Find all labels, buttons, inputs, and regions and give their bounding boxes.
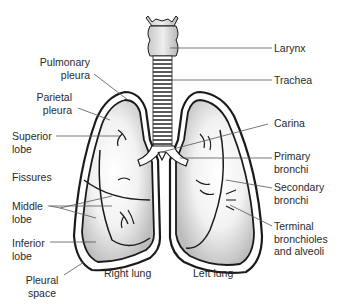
label-text: bronchioles	[274, 233, 328, 246]
caption-right-lung: Right lung	[104, 267, 151, 280]
label-text: pleura	[20, 69, 90, 82]
label-text: Pleural	[24, 274, 60, 287]
label-middle-lobe: Middle lobe	[12, 200, 43, 225]
label-text: and alveoli	[274, 245, 328, 258]
caption-left-lung: Left lung	[193, 267, 233, 280]
label-pleural-space: Pleural space	[24, 274, 60, 299]
label-inferior-lobe: Inferior lobe	[12, 237, 45, 262]
left-lung-shape	[170, 92, 262, 273]
label-text: space	[24, 287, 60, 300]
label-primary-bronchi: Primary bronchi	[274, 150, 310, 175]
label-text: Primary	[274, 150, 310, 163]
right-lung-shape	[74, 92, 160, 270]
label-text: Secondary	[274, 181, 324, 194]
label-pulmonary-pleura: Pulmonary pleura	[20, 56, 90, 81]
label-text: Superior	[12, 130, 52, 143]
label-larynx: Larynx	[274, 42, 306, 55]
label-text: Inferior	[12, 237, 45, 250]
label-text: Terminal	[274, 220, 328, 233]
label-text: lobe	[12, 213, 43, 226]
lung-diagram: Larynx Trachea Carina Primary bronchi Se…	[0, 0, 339, 304]
label-text: bronchi	[274, 163, 310, 176]
label-text: lobe	[12, 143, 52, 156]
label-parietal-pleura: Parietal pleura	[10, 91, 72, 116]
label-text: bronchi	[274, 194, 324, 207]
label-terminal-bronchioles: Terminal bronchioles and alveoli	[274, 220, 328, 258]
label-fissures: Fissures	[12, 171, 52, 184]
label-carina: Carina	[274, 117, 305, 130]
label-secondary-bronchi: Secondary bronchi	[274, 181, 324, 206]
label-text: Trachea	[274, 74, 312, 86]
trachea-shape	[153, 56, 172, 148]
label-text: Larynx	[274, 42, 306, 54]
label-text: Parietal	[10, 91, 72, 104]
label-text: Fissures	[12, 171, 52, 184]
label-text: Middle	[12, 200, 43, 213]
label-text: Carina	[274, 117, 305, 129]
larynx-shape	[146, 16, 178, 56]
label-text: pleura	[10, 104, 72, 117]
label-trachea: Trachea	[274, 74, 312, 87]
label-superior-lobe: Superior lobe	[12, 130, 52, 155]
label-text: lobe	[12, 250, 45, 263]
label-text: Pulmonary	[20, 56, 90, 69]
